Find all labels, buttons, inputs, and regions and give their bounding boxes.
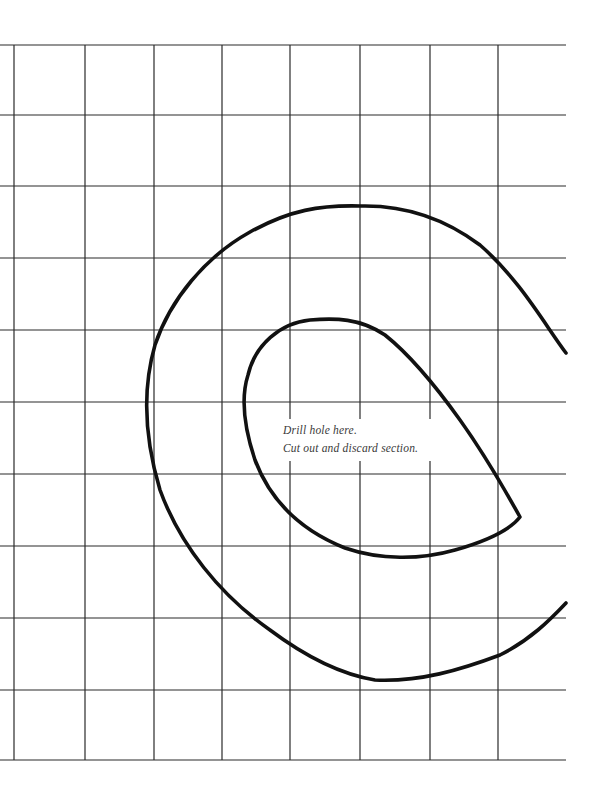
drill-note: Drill hole here. Cut out and discard sec… bbox=[283, 419, 439, 461]
grid-lines bbox=[0, 45, 566, 760]
note-line-cut: Cut out and discard section. bbox=[283, 439, 439, 457]
note-line-drill: Drill hole here. bbox=[283, 421, 439, 439]
grid-diagram bbox=[0, 0, 599, 800]
